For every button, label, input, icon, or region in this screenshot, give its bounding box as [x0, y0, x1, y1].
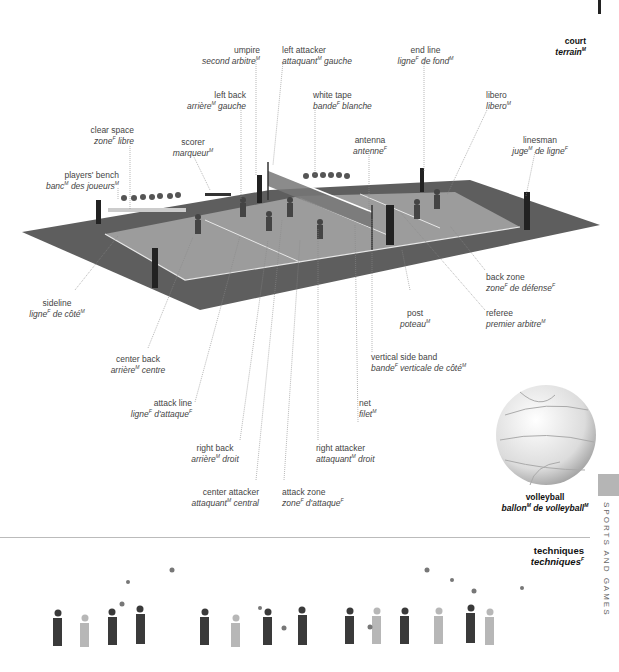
label-umpire: umpire second arbitreM: [200, 45, 260, 67]
label-left-back: left back arrièreM gauche: [185, 90, 246, 112]
volleyball-illustration: [496, 385, 596, 485]
chapter-tab: [598, 474, 619, 496]
label-left-attacker: left attacker attaquantM gauche: [282, 45, 352, 67]
label-end-line: end line ligneF de fondM: [393, 45, 458, 67]
label-right-back: right back arrièreM droit: [185, 443, 245, 465]
label-center-back: center back arrièreM centre: [108, 354, 168, 376]
label-antenna: antenna antenneF: [350, 135, 390, 157]
page-tab-marker: [598, 0, 601, 14]
label-sideline: sideline ligneF de côtéM: [22, 298, 92, 320]
label-back-zone: back zone zoneF de défenseF: [486, 272, 555, 294]
label-players-bench: players' bench bancM des joueursM: [30, 170, 119, 192]
section-title-techniques: techniques techniquesF: [531, 545, 584, 567]
label-linesman: linesman jugeM de ligneF: [510, 135, 570, 157]
court-illustration: [0, 0, 619, 672]
label-libero: libero liberoM: [486, 90, 511, 112]
label-attack-zone: attack zone zoneF d'attaqueF: [282, 487, 344, 509]
label-right-attacker: right attacker attaquantM droit: [316, 443, 375, 465]
label-referee: referee premier arbitreM: [486, 308, 545, 330]
label-attack-line: attack line ligneF d'attaqueF: [120, 398, 192, 420]
label-net: net filetM: [359, 398, 376, 420]
label-volleyball: volleyball ballonM de volleyballM: [495, 492, 595, 514]
label-vertical-side-band: vertical side band bandeF verticale de c…: [371, 352, 466, 374]
label-clear-space: clear space zoneF libre: [80, 125, 134, 147]
section-divider: [0, 537, 590, 538]
label-center-attacker: center attacker attaquantM central: [180, 487, 259, 509]
label-scorer: scorer marqueurM: [168, 137, 218, 159]
chapter-label: SPORTS AND GAMES: [602, 502, 611, 617]
label-post: post poteauM: [395, 308, 435, 330]
label-white-tape: white tape bandeF blanche: [313, 90, 372, 112]
section-title-court: court terrainM: [555, 36, 586, 58]
